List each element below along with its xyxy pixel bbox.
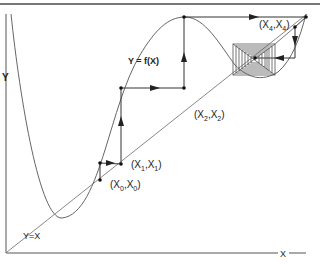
point-label-x1: (X1,X1) xyxy=(131,159,162,172)
arrow-right-icon xyxy=(249,14,259,20)
iterate-points xyxy=(98,15,308,182)
diagonal-label: Y=X xyxy=(23,231,40,241)
curve-label: Y = f(X) xyxy=(128,56,159,66)
cobweb-path xyxy=(100,17,306,180)
arrow-up-icon xyxy=(181,52,187,62)
arrow-left-icon xyxy=(274,55,284,61)
spiral-box xyxy=(233,27,295,75)
function-curve xyxy=(11,14,306,218)
arrow-right-icon xyxy=(150,85,160,91)
point-label-x2: (X2,X2) xyxy=(194,109,225,122)
y-axis-label: Y xyxy=(2,72,9,83)
arrow-icons xyxy=(106,14,298,166)
x-axis-label: X xyxy=(280,249,286,259)
arrow-up-icon xyxy=(118,116,124,126)
arrow-right-icon xyxy=(106,160,115,166)
point-label-x4: (X4,X4) xyxy=(259,19,290,32)
cobweb-diagram: Y X Y=X Y = f(X) xyxy=(0,0,320,264)
point-label-x0: (X0,X0) xyxy=(110,179,141,192)
